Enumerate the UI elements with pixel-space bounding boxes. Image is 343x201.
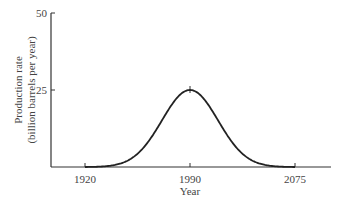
y-axis-sublabel: (billion barrels per year) bbox=[25, 36, 38, 144]
x-axis-label: Year bbox=[180, 185, 201, 197]
y-axis-label: Production rate bbox=[12, 56, 24, 124]
x-tick-1920: 1920 bbox=[74, 173, 97, 185]
y-tick-25: 25 bbox=[36, 84, 48, 96]
y-tick-50: 50 bbox=[36, 7, 48, 19]
x-tick-2075: 2075 bbox=[284, 173, 307, 185]
x-tick-1990: 1990 bbox=[179, 173, 202, 185]
chart: 50 25 1920 1990 2075 Year Production rat… bbox=[0, 0, 343, 201]
production-curve bbox=[85, 90, 295, 167]
